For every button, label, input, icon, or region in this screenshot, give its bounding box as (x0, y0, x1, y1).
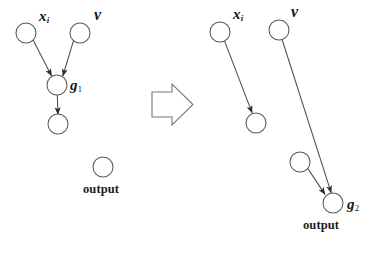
node-g2[interactable] (323, 193, 343, 213)
label-x-i-right: xi (233, 7, 243, 23)
edge-v-to-g1 (63, 40, 74, 76)
label-x-i-left: xi (39, 9, 49, 25)
node-xi[interactable] (16, 23, 36, 43)
node-g1[interactable] (47, 75, 67, 95)
label-output-left: output (83, 183, 119, 196)
node-v[interactable] (269, 20, 289, 40)
left-panel-group (16, 23, 113, 177)
node-hidden-left[interactable] (48, 114, 68, 134)
node-output-left[interactable] (93, 157, 113, 177)
edge-g1-to-node (57, 95, 58, 115)
block-arrow (152, 84, 193, 125)
label-g2: g2 (347, 197, 359, 212)
diagram-canvas: xi v g1 output xi v g2 output (0, 0, 381, 254)
right-panel-group (210, 20, 343, 213)
node-hidden-lower-right[interactable] (290, 152, 310, 172)
node-v[interactable] (70, 23, 90, 43)
node-hidden-upper-right[interactable] (246, 113, 266, 133)
edge-node-to-g2 (308, 168, 325, 194)
label-v-left: v (94, 7, 101, 23)
label-v-right: v (291, 4, 298, 20)
label-g1: g1 (70, 78, 82, 93)
label-output-right: output (303, 219, 339, 232)
edge-xi-to-g1 (33, 40, 52, 76)
edge-xi-to-node (225, 41, 253, 113)
diagram-svg (0, 0, 381, 254)
node-xi[interactable] (210, 22, 230, 42)
